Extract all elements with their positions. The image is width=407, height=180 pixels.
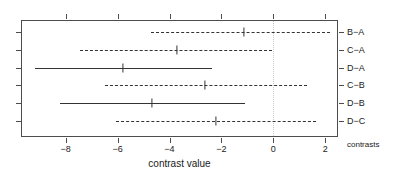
- estimate-marker-da: [122, 63, 123, 72]
- y-tick-right: [339, 68, 344, 69]
- x-tick-bottom: [325, 138, 326, 143]
- y-tick-left: [16, 85, 21, 86]
- x-tick-top: [273, 14, 274, 19]
- x-tick-label: 0: [271, 144, 276, 154]
- x-tick-top: [66, 14, 67, 19]
- x-tick-label: −2: [216, 144, 226, 154]
- y-tick-left: [16, 68, 21, 69]
- interval-cb: [105, 85, 307, 86]
- y-tick-label-ba: B−A: [347, 27, 364, 37]
- plot-panel-border: [21, 20, 338, 137]
- zero-reference-line: [273, 21, 274, 136]
- y-tick-label-cb: C−B: [347, 80, 365, 90]
- y-tick-label-da: D−A: [347, 63, 365, 73]
- x-tick-bottom: [66, 138, 67, 143]
- x-tick-bottom: [221, 138, 222, 143]
- chart-container: −8−6−4−202 B−AC−AD−AC−BD−BD−C contrast v…: [0, 0, 407, 180]
- y-tick-label-ca: C−A: [347, 45, 365, 55]
- y-tick-left: [16, 103, 21, 104]
- y-tick-left: [16, 32, 21, 33]
- y-tick-right: [339, 121, 344, 122]
- interval-ba: [151, 32, 330, 33]
- estimate-marker-ca: [176, 46, 177, 55]
- estimate-marker-dc: [215, 116, 216, 125]
- x-tick-top: [118, 14, 119, 19]
- y-tick-right: [339, 103, 344, 104]
- x-axis-title: contrast value: [0, 158, 359, 169]
- estimate-marker-cb: [204, 81, 205, 90]
- x-tick-bottom: [118, 138, 119, 143]
- x-tick-top: [221, 14, 222, 19]
- x-tick-label: −8: [61, 144, 71, 154]
- y-tick-left: [16, 50, 21, 51]
- y-tick-label-db: D−B: [347, 98, 365, 108]
- estimate-marker-db: [152, 99, 153, 108]
- estimate-marker-ba: [243, 28, 244, 37]
- x-tick-label: −4: [164, 144, 174, 154]
- x-tick-label: −6: [112, 144, 122, 154]
- x-tick-bottom: [273, 138, 274, 143]
- x-tick-top: [325, 14, 326, 19]
- x-tick-bottom: [170, 138, 171, 143]
- y-tick-right: [339, 50, 344, 51]
- y-tick-right: [339, 32, 344, 33]
- y-tick-right: [339, 85, 344, 86]
- y-axis-title: contrasts: [347, 140, 379, 149]
- y-tick-left: [16, 121, 21, 122]
- x-tick-top: [170, 14, 171, 19]
- x-tick-label: 2: [323, 144, 328, 154]
- y-tick-label-dc: D−C: [347, 116, 365, 126]
